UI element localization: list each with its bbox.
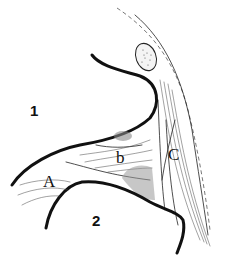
oval-structure <box>132 40 160 73</box>
upper-outline <box>12 55 157 185</box>
label-structure-b: b <box>116 148 125 167</box>
anatomical-drawing: 1 2 A b C <box>0 0 236 261</box>
label-region-2: 2 <box>92 212 100 229</box>
label-structure-A: A <box>43 172 56 191</box>
label-structure-C: C <box>168 145 179 164</box>
shaded-knob-upper <box>114 131 132 141</box>
label-region-1: 1 <box>30 102 38 119</box>
